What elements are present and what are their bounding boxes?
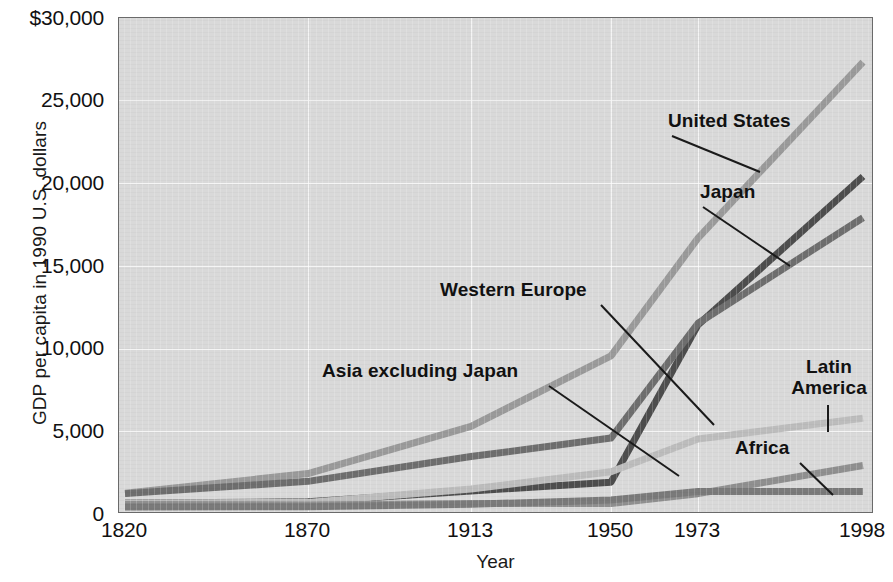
- y-tick-0: 0: [0, 502, 104, 526]
- x-tick-1973: 1973: [674, 518, 720, 542]
- callout-western-europe: Western Europe: [440, 279, 587, 300]
- y-tick-15000: 15,000: [0, 254, 104, 278]
- x-tick-1870: 1870: [284, 518, 330, 542]
- callout-latin-america: Latin America: [786, 356, 872, 398]
- y-tick-30000: $30,000: [0, 6, 104, 30]
- callout-latin-america-line2: America: [791, 377, 867, 398]
- x-axis-title: Year: [118, 551, 873, 573]
- callout-japan: Japan: [700, 181, 755, 202]
- gdp-per-capita-chart: GDP per capita in 1990 U.S. dollars $30,…: [0, 0, 893, 582]
- callout-united-states: United States: [668, 110, 791, 131]
- callout-latin-america-line1: Latin: [806, 356, 852, 377]
- x-tick-1950: 1950: [587, 518, 633, 542]
- x-tick-1820: 1820: [101, 518, 147, 542]
- x-tick-1913: 1913: [447, 518, 493, 542]
- x-tick-1998: 1998: [839, 518, 885, 542]
- y-tick-25000: 25,000: [0, 88, 104, 112]
- callout-asia-excluding-japan: Asia excluding Japan: [322, 360, 518, 381]
- y-tick-5000: 5,000: [0, 419, 104, 443]
- y-tick-20000: 20,000: [0, 171, 104, 195]
- callout-africa: Africa: [735, 437, 789, 458]
- y-tick-10000: 10,000: [0, 336, 104, 360]
